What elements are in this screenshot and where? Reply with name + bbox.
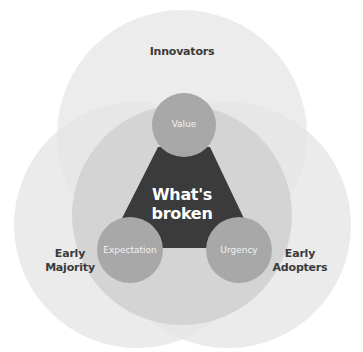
- early-majority-line-2: Majority: [30, 261, 110, 275]
- urgency-label: Urgency: [199, 244, 279, 256]
- center-line-2: broken: [132, 204, 232, 223]
- innovators-label: Innovators: [132, 45, 232, 59]
- expectation-label: Expectation: [90, 244, 170, 256]
- early-adopters-line-2: Adopters: [260, 261, 340, 275]
- value-label: Value: [144, 118, 224, 130]
- center-label: What's broken: [132, 185, 232, 223]
- center-line-1: What's: [132, 185, 232, 204]
